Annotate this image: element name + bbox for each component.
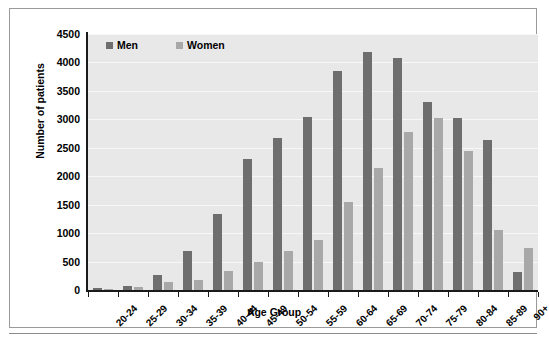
bar-men-70-74 xyxy=(393,58,402,290)
x-axis-line xyxy=(86,290,538,292)
y-tick-label: 2500 xyxy=(57,142,80,154)
legend-label-women: Women xyxy=(187,39,225,51)
x-tickmark xyxy=(358,292,359,297)
caption-divider xyxy=(9,333,537,334)
chart-legend: MenWomen xyxy=(106,39,225,51)
x-tickmark xyxy=(238,292,239,297)
y-tick-label: 3000 xyxy=(57,113,80,125)
x-axis-title: Age Group xyxy=(10,306,538,318)
bar-women-45-49 xyxy=(254,262,263,290)
bar-men-50-54 xyxy=(273,138,282,290)
bar-men-55-59 xyxy=(303,117,312,290)
legend-item-women: Women xyxy=(176,39,225,51)
y-tick-label: 1500 xyxy=(57,199,80,211)
y-axis-line xyxy=(86,32,88,292)
bar-men-40-44 xyxy=(213,214,222,290)
x-tickmark xyxy=(538,292,539,297)
plot-area xyxy=(88,34,538,290)
bar-women-50-54 xyxy=(284,251,293,290)
x-tickmark xyxy=(208,292,209,297)
bar-women-55-59 xyxy=(314,240,323,290)
x-tickmark xyxy=(448,292,449,297)
bar-men-75-79 xyxy=(423,102,432,290)
x-tickmark xyxy=(118,292,119,297)
y-tick-label: 4500 xyxy=(57,28,80,40)
x-tickmark xyxy=(268,292,269,297)
bar-men-85-89 xyxy=(483,140,492,290)
bar-women-60-64 xyxy=(344,202,353,290)
y-tick-label: 1000 xyxy=(57,227,80,239)
gridline xyxy=(88,119,538,120)
bar-men-30-34 xyxy=(153,275,162,290)
legend-item-men: Men xyxy=(106,39,138,51)
women-swatch xyxy=(176,42,183,49)
bar-men-45-49 xyxy=(243,159,252,290)
men-swatch xyxy=(106,42,113,49)
y-tick-label: 3500 xyxy=(57,85,80,97)
bar-women-80-84 xyxy=(464,151,473,290)
bar-men-35-39 xyxy=(183,251,192,290)
x-tickmark xyxy=(178,292,179,297)
bar-women-30-34 xyxy=(164,282,173,290)
x-tickmark xyxy=(478,292,479,297)
y-tick-label: 0 xyxy=(74,284,80,296)
figure-container: Number of patients 050010001500200025003… xyxy=(0,0,549,348)
bar-men-60-64 xyxy=(333,71,342,290)
legend-label-men: Men xyxy=(117,39,138,51)
y-axis-tick-labels: 050010001500200025003000350040004500 xyxy=(34,23,84,293)
bar-women-90+ xyxy=(524,248,533,290)
x-tickmark xyxy=(298,292,299,297)
x-tickmark xyxy=(388,292,389,297)
bar-men-65-69 xyxy=(363,52,372,290)
bar-women-85-89 xyxy=(494,230,503,290)
y-tick-label: 500 xyxy=(62,256,80,268)
x-tickmark xyxy=(88,292,89,297)
caption-text xyxy=(9,338,537,347)
bar-women-70-74 xyxy=(404,132,413,290)
bar-men-90+ xyxy=(513,272,522,290)
bar-women-65-69 xyxy=(374,168,383,290)
x-tickmark xyxy=(418,292,419,297)
x-tickmark xyxy=(148,292,149,297)
bar-women-75-79 xyxy=(434,118,443,290)
gridline xyxy=(88,34,538,35)
x-tickmark xyxy=(508,292,509,297)
gridline xyxy=(88,62,538,63)
bar-women-35-39 xyxy=(194,280,203,290)
y-tick-label: 4000 xyxy=(57,56,80,68)
y-tick-label: 2000 xyxy=(57,170,80,182)
gridline xyxy=(88,148,538,149)
bar-men-80-84 xyxy=(453,118,462,290)
gridline xyxy=(88,91,538,92)
chart-frame: Number of patients 050010001500200025003… xyxy=(9,8,537,328)
bar-women-40-44 xyxy=(224,271,233,290)
x-tickmark xyxy=(328,292,329,297)
